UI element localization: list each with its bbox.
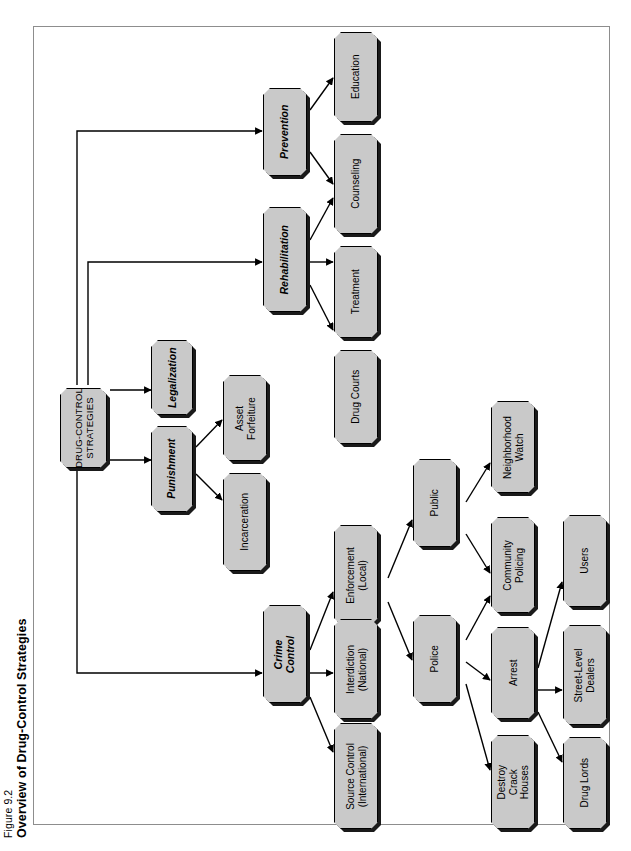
node-prevention[interactable]: Prevention <box>263 88 307 176</box>
node-enforcement-local[interactable]: Enforcement (Local) <box>334 525 378 625</box>
node-interdiction-national[interactable]: Interdiction (National) <box>334 619 378 719</box>
node-label: Destroy Crack Houses <box>496 765 531 799</box>
node-community-policing[interactable]: Community Policing <box>491 517 535 613</box>
node-source-control-international[interactable]: Source Control (International) <box>334 723 378 829</box>
node-label: Rehabilitation <box>279 225 291 294</box>
node-public[interactable]: Public <box>413 459 457 547</box>
node-label: Users <box>579 548 591 574</box>
node-street-level-dealers[interactable]: Street-Level Dealers <box>563 625 607 725</box>
node-asset-forfeiture[interactable]: Asset Forfeiture <box>223 375 267 461</box>
node-label: Neighborhood Watch <box>502 416 525 479</box>
node-users[interactable]: Users <box>563 515 607 607</box>
node-punishment[interactable]: Punishment <box>151 426 193 512</box>
node-label: Street-Level Dealers <box>574 648 597 702</box>
node-neighborhood-watch[interactable]: Neighborhood Watch <box>491 401 535 493</box>
node-incarceration[interactable]: Incarceration <box>223 473 267 571</box>
node-education[interactable]: Education <box>334 32 378 122</box>
node-label: Punishment <box>166 439 178 499</box>
node-label: Interdiction (National) <box>345 645 368 694</box>
flowchart-canvas: DRUG-CONTROL STRATEGIES Crime Control Pu… <box>0 0 631 851</box>
node-drug-lords[interactable]: Drug Lords <box>563 737 607 829</box>
node-rehabilitation[interactable]: Rehabilitation <box>263 207 307 312</box>
node-label: Enforcement (Local) <box>345 547 368 604</box>
node-label: Education <box>350 55 362 99</box>
node-label: Police <box>429 645 441 672</box>
node-drug-control-strategies[interactable]: DRUG-CONTROL STRATEGIES <box>60 388 107 468</box>
node-label: Public <box>429 489 441 516</box>
node-label: Prevention <box>279 105 291 159</box>
node-label: Drug Courts <box>350 370 362 424</box>
node-police[interactable]: Police <box>413 615 457 703</box>
node-label: Asset Forfeiture <box>234 397 257 440</box>
node-legalization[interactable]: Legalization <box>151 340 193 415</box>
node-counseling[interactable]: Counseling <box>334 134 378 234</box>
node-crime-control[interactable]: Crime Control <box>263 605 307 703</box>
node-label: Treatment <box>350 269 362 314</box>
node-label: DRUG-CONTROL STRATEGIES <box>73 388 95 468</box>
node-label: Legalization <box>166 347 178 408</box>
node-label: Source Control (International) <box>345 743 368 810</box>
node-label: Arrest <box>507 660 519 687</box>
node-label: Drug Lords <box>579 758 591 807</box>
node-label: Counseling <box>350 159 362 209</box>
node-label: Crime Control <box>273 635 296 672</box>
node-drug-courts[interactable]: Drug Courts <box>334 350 378 444</box>
node-label: Community Policing <box>502 540 525 591</box>
node-arrest[interactable]: Arrest <box>491 627 535 719</box>
node-destroy-crack-houses[interactable]: Destroy Crack Houses <box>491 735 535 829</box>
node-label: Incarceration <box>239 493 251 551</box>
node-treatment[interactable]: Treatment <box>334 246 378 338</box>
